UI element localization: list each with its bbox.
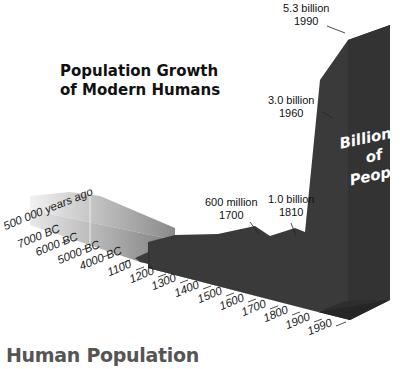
annotation-1810: 1.0 billion 1810 [268,193,314,219]
annotation-1700: 600 million 1700 [205,196,258,222]
chart-title-line1: Population Growth [60,62,220,81]
annotation-1960: 3.0 billion 1960 [268,94,314,120]
section-heading: Human Population [6,344,199,366]
annotation-1990: 5.3 billion 1990 [283,2,329,28]
chart-title: Population Growth of Modern Humans [60,62,220,100]
chart-title-line2: of Modern Humans [60,81,220,100]
